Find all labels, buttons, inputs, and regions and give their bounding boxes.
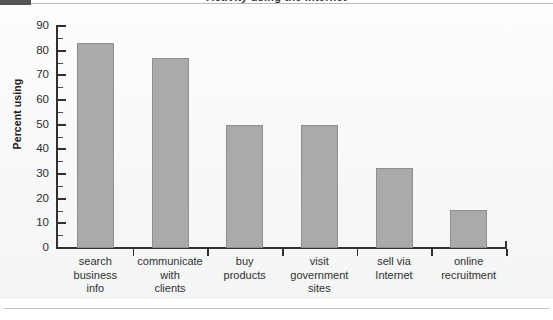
category-label-line: buy xyxy=(207,255,282,269)
y-tick-minor xyxy=(58,186,63,187)
bar xyxy=(376,168,413,248)
y-tick-minor xyxy=(58,161,63,162)
y-tick-minor xyxy=(58,112,63,113)
category-label-line: communicate xyxy=(133,255,208,269)
y-tick-label: 0 xyxy=(13,242,49,254)
category-label: visitgovernmentsites xyxy=(282,255,357,296)
bar xyxy=(301,125,338,248)
y-tick-label: 10 xyxy=(13,217,49,229)
y-tick-label: 20 xyxy=(13,193,49,205)
y-tick-minor xyxy=(58,63,63,64)
y-tick-minor xyxy=(58,87,63,88)
y-tick-major xyxy=(58,247,66,249)
category-label-line: search xyxy=(58,255,133,269)
y-tick-label: 90 xyxy=(13,20,49,32)
category-label-line: sell via xyxy=(357,255,432,269)
y-tick-major xyxy=(58,50,66,52)
category-label: buyproducts xyxy=(207,255,282,282)
y-axis-title: Percent using xyxy=(11,74,23,154)
y-tick-label: 50 xyxy=(13,119,49,131)
y-tick-major xyxy=(58,74,66,76)
y-tick-major xyxy=(58,222,66,224)
y-tick-label: 70 xyxy=(13,69,49,81)
y-tick-major xyxy=(58,198,66,200)
category-label: onlinerecruitment xyxy=(431,255,506,282)
category-label-line: products xyxy=(207,269,282,283)
category-label-line: sites xyxy=(282,282,357,296)
y-tick-major xyxy=(58,25,66,27)
y-tick-label: 80 xyxy=(13,45,49,57)
y-tick-minor xyxy=(58,137,63,138)
bar xyxy=(450,210,487,248)
category-label-line: Internet xyxy=(357,269,432,283)
chart-figure: Activity using the Internet Percent usin… xyxy=(0,0,553,320)
category-label-line: business xyxy=(58,269,133,283)
y-tick-major xyxy=(58,148,66,150)
bar xyxy=(226,125,263,248)
bar xyxy=(77,43,114,248)
category-label-line: government xyxy=(282,269,357,283)
category-label: communicatewithclients xyxy=(133,255,208,296)
category-label: sell viaInternet xyxy=(357,255,432,282)
y-tick-label: 40 xyxy=(13,143,49,155)
bar xyxy=(152,58,189,248)
y-tick-label: 30 xyxy=(13,168,49,180)
category-label-line: online xyxy=(431,255,506,269)
x-tick xyxy=(506,249,508,256)
category-label-line: visit xyxy=(282,255,357,269)
x-axis-end-cap xyxy=(505,241,507,249)
y-tick-minor xyxy=(58,211,63,212)
plot-area: Percent using 9080706050403020100 search… xyxy=(0,0,553,320)
y-tick-label: 60 xyxy=(13,94,49,106)
category-label-line: with xyxy=(133,269,208,283)
category-label: searchbusinessinfo xyxy=(58,255,133,296)
y-tick-major xyxy=(58,99,66,101)
y-tick-minor xyxy=(58,235,63,236)
y-tick-major xyxy=(58,124,66,126)
category-label-line: clients xyxy=(133,282,208,296)
category-label-line: info xyxy=(58,282,133,296)
y-tick-minor xyxy=(58,38,63,39)
category-label-line: recruitment xyxy=(431,269,506,283)
y-tick-major xyxy=(58,173,66,175)
